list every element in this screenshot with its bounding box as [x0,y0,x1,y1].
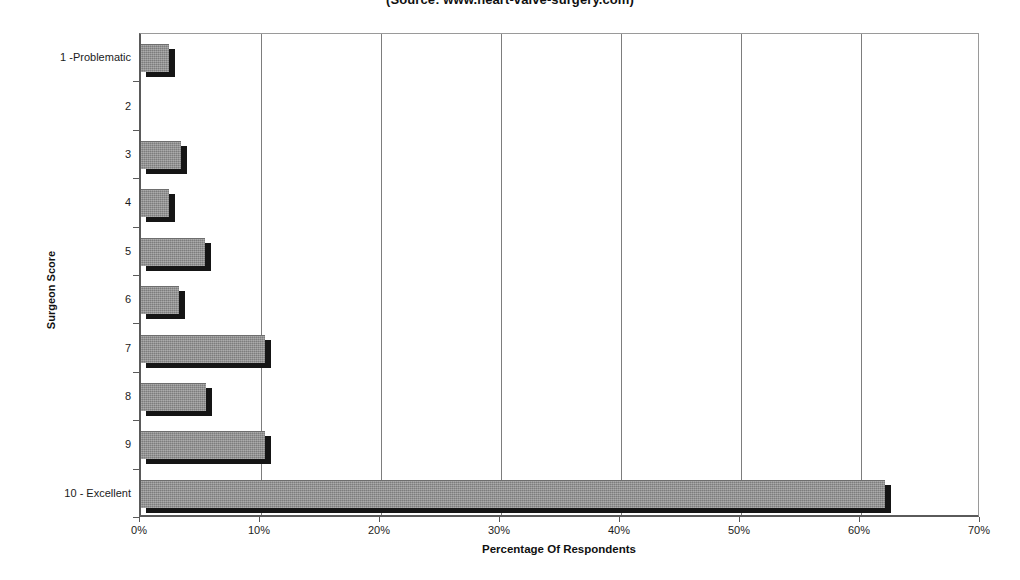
bar-fill [141,238,205,266]
y-axis-tick-mark [133,275,139,276]
y-axis-tick-label: 8 [125,390,131,402]
bar-shadow-bottom [146,72,175,77]
x-axis-tick-mark [139,517,140,522]
y-axis-tick-label: 10 - Excellent [64,487,131,499]
bar [141,480,885,508]
y-axis-tick-mark [133,227,139,228]
x-axis-tick-label: 0% [131,524,147,536]
bar-row [141,335,978,363]
bar-row [141,480,978,508]
y-axis-tick-mark [133,323,139,324]
x-axis-tick-mark [739,517,740,522]
y-axis-tick-label: 7 [125,342,131,354]
y-axis-tick-label: 2 [125,100,131,112]
bar [141,335,265,363]
bar-chart: (Source: www.heart-valve-surgery.com) Su… [0,0,1020,580]
bar-row [141,238,978,266]
bar-fill [141,141,181,169]
plot-area [139,33,979,517]
x-axis-tick-mark [379,517,380,522]
bar-shadow-bottom [146,169,187,174]
y-axis-tick-label: 4 [125,196,131,208]
y-axis-tick-mark [133,372,139,373]
x-axis-tick-label: 60% [848,524,870,536]
bar-fill [141,286,179,314]
bar-fill [141,480,885,508]
bar-fill [141,44,169,72]
x-axis-title: Percentage Of Respondents [139,543,979,555]
x-axis-tick-mark [859,517,860,522]
y-axis-tick-mark [133,81,139,82]
bar [141,189,169,217]
bar-row [141,286,978,314]
y-axis-tick-mark [133,130,139,131]
bar [141,44,169,72]
bar-shadow-bottom [146,508,891,513]
y-axis-tick-label: 9 [125,438,131,450]
bar-shadow-bottom [146,363,271,368]
y-axis-tick-mark [133,420,139,421]
y-axis-tick-mark [133,178,139,179]
y-axis-title: Surgeon Score [45,251,57,329]
bar-fill [141,383,206,411]
y-axis-tick-label: 5 [125,245,131,257]
x-axis-tick-label: 20% [368,524,390,536]
bar [141,286,179,314]
bar [141,431,265,459]
bar-fill [141,189,169,217]
x-axis-tick-label: 50% [728,524,750,536]
x-axis-tick-mark [259,517,260,522]
bar-row [141,93,978,121]
bar-rows [141,34,978,515]
x-axis-tick-mark [499,517,500,522]
chart-title: (Source: www.heart-valve-surgery.com) [0,0,1020,7]
bar-row [141,189,978,217]
x-axis-tick-mark [619,517,620,522]
bar [141,238,205,266]
x-axis-tick-label: 70% [968,524,990,536]
bar-row [141,431,978,459]
bar-shadow-bottom [146,217,175,222]
x-axis-tick-label: 10% [248,524,270,536]
bar-shadow-bottom [146,266,211,271]
y-axis-tick-label: 1 -Problematic [60,51,131,63]
y-axis-tick-label: 6 [125,293,131,305]
x-axis-tick-label: 40% [608,524,630,536]
bar-row [141,383,978,411]
bar [141,141,181,169]
x-axis-tick-mark [979,517,980,522]
bar [141,383,206,411]
bar-fill [141,335,265,363]
bar-row [141,44,978,72]
bar-shadow-bottom [146,459,271,464]
bar-row [141,141,978,169]
bar-shadow-bottom [146,314,185,319]
bar-fill [141,431,265,459]
bar-shadow-bottom [146,411,212,416]
y-axis-tick-mark [133,469,139,470]
x-axis-tick-label: 30% [488,524,510,536]
y-axis-tick-label: 3 [125,148,131,160]
